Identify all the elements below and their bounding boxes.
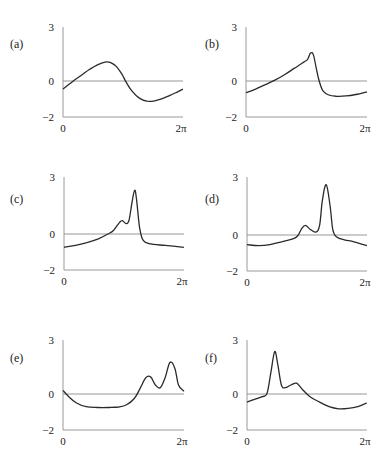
y-tick-bottom: −2 <box>225 111 237 123</box>
y-tick-zero: 0 <box>49 75 55 87</box>
panel-d: 30−202π(d) <box>205 171 371 288</box>
y-tick-zero: 0 <box>233 229 239 241</box>
panel-a: 30−202π(a) <box>10 21 187 134</box>
x-tick-left: 0 <box>60 122 66 134</box>
panel-f: 30−202π(f) <box>205 334 371 447</box>
x-tick-right: 2π <box>359 276 371 288</box>
y-tick-top: 3 <box>49 21 55 33</box>
y-tick-zero: 0 <box>50 228 56 240</box>
figure: 30−202π(a) 30−202π(b) 30−202π(c) 30−202π… <box>0 0 389 471</box>
data-curve <box>247 185 367 246</box>
data-curve <box>63 62 183 102</box>
data-curve <box>63 362 184 408</box>
x-tick-right: 2π <box>359 435 371 447</box>
panel-label: (e) <box>10 351 23 365</box>
panel-label: (a) <box>10 37 23 51</box>
y-tick-bottom: −2 <box>42 424 54 436</box>
y-tick-zero: 0 <box>49 388 55 400</box>
y-tick-top: 3 <box>49 334 55 346</box>
panel-b: 30−202π(b) <box>205 21 371 134</box>
y-tick-top: 3 <box>233 171 239 183</box>
x-tick-right: 2π <box>175 122 187 134</box>
data-curve <box>247 351 367 408</box>
panel-e: 30−202π(e) <box>10 334 188 447</box>
y-tick-bottom: −2 <box>226 424 238 436</box>
x-tick-left: 0 <box>61 275 67 287</box>
x-tick-left: 0 <box>244 435 250 447</box>
y-tick-bottom: −2 <box>43 264 55 276</box>
x-tick-right: 2π <box>176 275 188 287</box>
panel-c: 30−202π(c) <box>10 171 188 287</box>
data-curve <box>64 190 184 247</box>
y-tick-zero: 0 <box>232 75 238 87</box>
panel-label: (d) <box>205 192 219 206</box>
y-tick-bottom: −2 <box>42 111 54 123</box>
x-tick-left: 0 <box>60 435 66 447</box>
data-curve <box>246 53 367 97</box>
panel-label: (c) <box>10 192 23 206</box>
panel-label: (b) <box>205 37 219 51</box>
panel-label: (f) <box>205 351 217 365</box>
y-tick-top: 3 <box>232 21 238 33</box>
y-tick-zero: 0 <box>233 388 239 400</box>
y-tick-bottom: −2 <box>226 265 238 277</box>
y-tick-top: 3 <box>233 334 239 346</box>
x-tick-right: 2π <box>176 435 188 447</box>
x-tick-right: 2π <box>359 122 371 134</box>
x-tick-left: 0 <box>244 276 250 288</box>
x-tick-left: 0 <box>243 122 249 134</box>
y-tick-top: 3 <box>50 171 56 183</box>
